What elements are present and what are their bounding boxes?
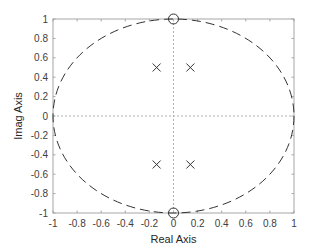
y-tick-label: -0.4 — [31, 149, 49, 160]
plot-area — [53, 14, 294, 218]
y-tick-label: -0.8 — [31, 188, 49, 199]
pole-marker-icon — [186, 161, 194, 169]
y-tick-label: 0.6 — [34, 52, 48, 63]
x-axis-label: Real Axis — [151, 233, 197, 245]
x-tick-label: -0.6 — [93, 218, 111, 229]
y-axis-label: Imag Axis — [12, 92, 24, 140]
y-tick-label: 0.4 — [34, 72, 48, 83]
y-tick-label: -0.6 — [31, 169, 49, 180]
y-tick-label: -0.2 — [31, 130, 49, 141]
y-tick-label: 0.2 — [34, 91, 48, 102]
x-tick-label: 0 — [171, 218, 177, 229]
pole-marker-icon — [186, 64, 194, 72]
pole-zero-plot: -1-0.8-0.6-0.4-0.200.20.40.60.81-1-0.8-0… — [0, 0, 312, 251]
x-tick-label: 0.2 — [191, 218, 205, 229]
pole-marker-icon — [153, 64, 161, 72]
y-tick-label: -1 — [39, 208, 48, 219]
x-tick-label: -0.2 — [141, 218, 159, 229]
y-tick-label: 0.8 — [34, 33, 48, 44]
x-tick-label: 0.6 — [239, 218, 253, 229]
x-tick-label: 0.8 — [263, 218, 277, 229]
x-tick-label: 0.4 — [215, 218, 229, 229]
x-tick-label: -0.8 — [68, 218, 86, 229]
x-tick-label: -0.4 — [117, 218, 135, 229]
y-tick-label: 0 — [42, 111, 48, 122]
y-tick-label: 1 — [42, 14, 48, 25]
x-tick-label: 1 — [291, 218, 297, 229]
pole-marker-icon — [153, 161, 161, 169]
x-tick-label: -1 — [49, 218, 58, 229]
